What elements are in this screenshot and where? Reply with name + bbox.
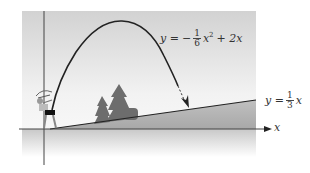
eq-fraction: 1 6 [193, 29, 201, 48]
line-eq-fraction: 1 3 [286, 91, 294, 110]
line-eq-term: x [296, 94, 302, 107]
eq-exponent: 2 [209, 31, 213, 39]
projectile-figure: y = − 1 6 x2 + 2x y = 1 3 x x [0, 0, 310, 173]
parabola-equation: y = − 1 6 x2 + 2x [160, 29, 243, 48]
line-equation: y = 1 3 x [265, 91, 302, 110]
eq-rest: + 2x [217, 32, 243, 45]
line-eq-lhs: y = [265, 94, 284, 107]
eq-frac-den: 6 [194, 39, 200, 48]
x-axis-arrow-icon [264, 126, 272, 132]
eq-sign: − [182, 32, 191, 45]
figure-canvas [0, 0, 310, 173]
x-axis-label: x [274, 121, 280, 134]
eq-lhs: y = [160, 32, 179, 45]
line-eq-frac-den: 3 [287, 101, 293, 110]
below-axis-panel [22, 129, 256, 157]
